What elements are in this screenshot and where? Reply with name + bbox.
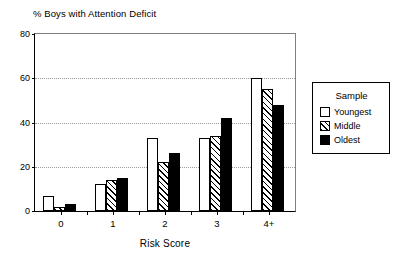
legend-swatch-icon-middle	[320, 121, 330, 131]
legend-item-middle[interactable]: Middle	[320, 121, 383, 131]
y-tick-label: 0	[25, 206, 30, 216]
x-tick-label: 0	[58, 218, 63, 229]
x-group-separator-tick	[87, 211, 88, 215]
bar-0-youngest	[43, 196, 54, 211]
bar-1-middle	[106, 180, 117, 211]
plot-area: 020406080 01234+	[34, 33, 296, 212]
bar-2-youngest	[147, 138, 158, 211]
y-tick-label: 20	[20, 162, 30, 172]
x-tick-label: 1	[110, 218, 115, 229]
y-tick-label: 40	[20, 118, 30, 128]
x-tick-label: 2	[162, 218, 167, 229]
x-axis-title: Risk Score	[34, 238, 296, 249]
x-group-separator-tick	[139, 211, 140, 215]
x-tick-label: 3	[214, 218, 219, 229]
x-tick-label: 4+	[264, 218, 275, 229]
x-group-separator-tick	[191, 211, 192, 215]
bar-1-oldest	[117, 178, 128, 211]
bar-3-youngest	[199, 138, 210, 211]
x-axis: 01234+	[35, 211, 295, 237]
bar-2-oldest	[169, 153, 180, 211]
legend: Sample YoungestMiddleOldest	[312, 82, 390, 154]
bar-0-middle	[54, 207, 65, 211]
x-tick-mark	[217, 211, 218, 215]
y-tick-label: 60	[20, 73, 30, 83]
bar-1-youngest	[95, 184, 106, 211]
x-tick-mark	[269, 211, 270, 215]
x-tick-mark	[113, 211, 114, 215]
bar-chart-figure: % Boys with Attention Deficit 020406080 …	[0, 0, 397, 264]
bar-3-middle	[210, 136, 221, 211]
legend-swatch-icon-youngest	[320, 107, 330, 117]
y-tick-label: 80	[20, 29, 30, 39]
bar-4plus-youngest	[251, 78, 262, 211]
legend-item-label: Oldest	[334, 135, 360, 145]
legend-title: Sample	[320, 90, 383, 101]
x-tick-mark	[61, 211, 62, 215]
legend-item-oldest[interactable]: Oldest	[320, 135, 383, 145]
bar-4plus-oldest	[273, 105, 284, 211]
legend-entries: YoungestMiddleOldest	[320, 107, 383, 145]
bars-layer	[35, 34, 295, 211]
legend-item-label: Youngest	[334, 107, 371, 117]
legend-item-youngest[interactable]: Youngest	[320, 107, 383, 117]
bar-3-oldest	[221, 118, 232, 211]
x-tick-mark	[165, 211, 166, 215]
chart-title: % Boys with Attention Deficit	[33, 8, 156, 19]
bar-0-oldest	[65, 204, 76, 211]
bar-4plus-middle	[262, 89, 273, 211]
x-group-separator-tick	[243, 211, 244, 215]
legend-item-label: Middle	[334, 121, 361, 131]
bar-2-middle	[158, 162, 169, 211]
legend-swatch-icon-oldest	[320, 135, 330, 145]
